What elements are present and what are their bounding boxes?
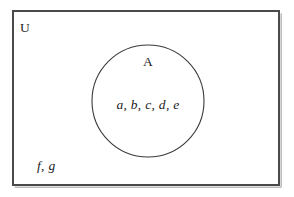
venn-diagram-canvas: U A a, b, c, d, e f, g — [0, 0, 293, 197]
set-a-label: A — [2, 55, 294, 69]
universe-label: U — [20, 21, 30, 35]
outside-members-label: f, g — [37, 159, 55, 173]
set-a-members-label: a, b, c, d, e — [2, 98, 294, 112]
